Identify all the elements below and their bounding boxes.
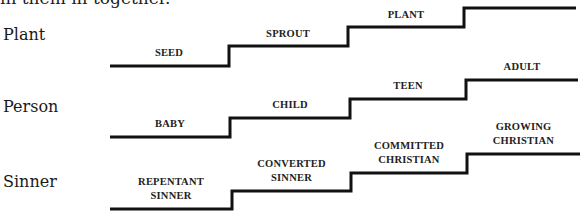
stage-label-line: CHRISTIAN (467, 134, 580, 148)
stage-label: BABY (110, 117, 230, 131)
stage-label: CHILD (230, 98, 350, 112)
stage-label-line: GROWING (467, 120, 580, 134)
stage-label-line: CHRISTIAN (351, 153, 467, 167)
stage-label-line: CONVERTED (232, 157, 351, 171)
stage-label: SPROUT (229, 27, 347, 41)
stage-label: PLANT (348, 8, 464, 22)
stage-label: REPENTANT SINNER (110, 175, 232, 203)
stage-label: COMMITTED CHRISTIAN (351, 139, 467, 167)
stage-label: TEEN (350, 79, 466, 93)
stage-label: SEED (110, 46, 228, 60)
stage-label: GROWING CHRISTIAN (467, 120, 580, 148)
stage-label-line: SINNER (110, 189, 232, 203)
stage-label-line: SINNER (232, 171, 351, 185)
stage-label-line: COMMITTED (351, 139, 467, 153)
stage-label-line: REPENTANT (110, 175, 232, 189)
stage-label: CONVERTED SINNER (232, 157, 351, 185)
stage-label: ADULT (466, 60, 578, 74)
